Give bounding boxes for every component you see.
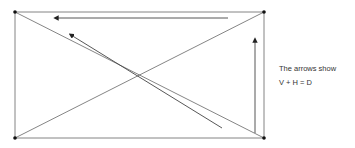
vertex-bottom-right (262, 136, 266, 140)
diagonals (15, 12, 264, 138)
arrows (56, 18, 255, 133)
vertex-top-left (13, 10, 17, 14)
diagonal-arrow-d (71, 35, 222, 128)
vertex-top-right (262, 10, 266, 14)
caption-line-1: The arrows show (279, 62, 336, 76)
caption-line-2: V + H = D (279, 76, 336, 90)
vertex-bottom-left (13, 136, 17, 140)
caption: The arrows show V + H = D (279, 62, 336, 90)
